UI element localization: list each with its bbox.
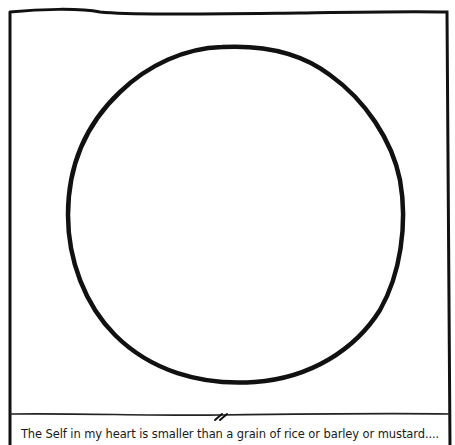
hand-drawn-circle: [68, 47, 403, 383]
panel-divider: [10, 414, 450, 416]
comic-panel: The Self in my heart is smaller than a g…: [0, 0, 455, 445]
panel-drawing: [0, 0, 455, 445]
panel-frame: [10, 9, 450, 445]
caption-text: The Self in my heart is smaller than a g…: [10, 427, 450, 441]
